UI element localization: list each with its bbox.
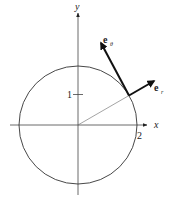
e-theta-label: e θ [103,34,113,47]
y-axis-label: y [74,1,80,12]
y-tick-label: 1 [67,89,72,100]
svg-text:e: e [154,82,159,93]
svg-text:θ: θ [110,41,113,47]
svg-text:e: e [103,34,108,45]
polar-vectors-diagram: y x 1 2 e θ e r [0,0,174,202]
e-theta-vector-arrow [101,43,129,96]
x-axis-label: x [153,119,159,130]
e-r-label: e r [154,82,164,95]
radius-line [78,96,129,126]
x-tick-label: 2 [137,130,142,141]
svg-text:r: r [161,89,164,95]
e-r-vector-arrow [129,81,154,96]
